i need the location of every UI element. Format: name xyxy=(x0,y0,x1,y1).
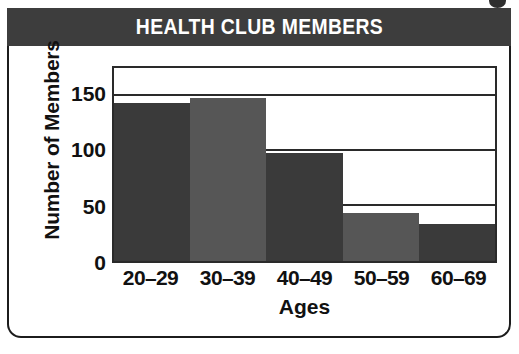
y-tick-label: 50 xyxy=(50,195,106,219)
x-tick-label: 30–39 xyxy=(189,266,266,290)
chart-title: HEALTH CLUB MEMBERS xyxy=(135,14,382,40)
x-axis-tick-labels: 20–2930–3940–4950–5960–69 xyxy=(112,266,497,290)
x-tick-label: 60–69 xyxy=(420,266,497,290)
x-tick-label: 40–49 xyxy=(266,266,343,290)
chart-card: HEALTH CLUB MEMBERS Number of Members 05… xyxy=(7,10,511,338)
bar-50–59 xyxy=(343,211,419,261)
x-tick-label: 20–29 xyxy=(112,266,189,290)
y-tick-label: 100 xyxy=(50,138,106,162)
plot-area xyxy=(112,66,497,263)
x-axis-title: Ages xyxy=(112,295,497,319)
bar-20–29 xyxy=(114,101,190,261)
y-axis-tick-labels: 050100150 xyxy=(46,66,106,263)
x-tick-label: 50–59 xyxy=(343,266,420,290)
scan-artifact-blob xyxy=(489,0,506,8)
bar-series xyxy=(114,68,495,261)
chart-title-bar: HEALTH CLUB MEMBERS xyxy=(7,8,511,46)
y-tick-label: 150 xyxy=(50,82,106,106)
bar-60–69 xyxy=(419,222,495,261)
bar-40–49 xyxy=(266,151,342,261)
y-tick-label: 0 xyxy=(50,251,106,275)
bar-30–39 xyxy=(190,96,266,261)
